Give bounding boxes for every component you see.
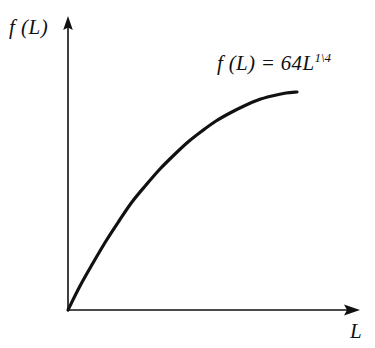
production-function-curve [68,92,297,310]
curve-equation-label: f (L) = 64L1\4 [217,51,331,74]
figure-canvas: f (L) L f (L) = 64L1\4 [0,0,375,348]
curve-group [68,92,297,310]
x-axis-label: L [350,321,362,342]
equation-base: f (L) = 64L [217,51,314,75]
equation-exponent: 1\4 [314,50,331,65]
y-axis-label: f (L) [9,17,48,38]
